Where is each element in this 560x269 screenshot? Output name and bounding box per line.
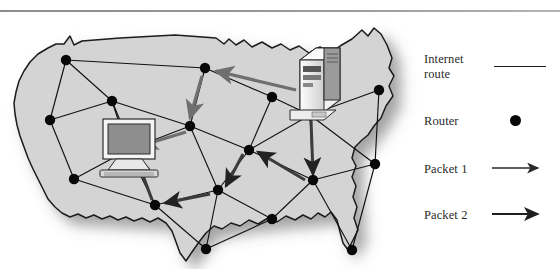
legend-item-packet1: Packet 1 [424, 158, 560, 180]
router-node[interactable] [45, 115, 55, 125]
legend-label-packet1: Packet 1 [424, 162, 486, 177]
legend-label-internet-route: Internet route [424, 52, 486, 82]
router-node[interactable] [347, 245, 357, 255]
legend: Internet route Router Packet 1 [424, 52, 560, 252]
router-dot-icon [488, 110, 556, 132]
router-node[interactable] [267, 214, 277, 224]
packet2-arrow-icon [488, 204, 556, 226]
packet1-arrow-icon [488, 158, 556, 180]
router-node[interactable] [267, 92, 277, 102]
router-node[interactable] [107, 96, 117, 106]
router-node[interactable] [150, 200, 160, 210]
router-node[interactable] [200, 63, 210, 73]
us-map-container [0, 14, 420, 269]
router-node[interactable] [244, 145, 254, 155]
routing-figure: Internet route Router Packet 1 [0, 0, 560, 269]
router-node[interactable] [201, 244, 211, 254]
router-node[interactable] [308, 175, 318, 185]
top-divider-rule [0, 10, 560, 12]
us-map-svg [0, 14, 420, 269]
router-node[interactable] [61, 55, 71, 65]
router-node[interactable] [185, 121, 195, 131]
router-node[interactable] [374, 85, 384, 95]
legend-item-router: Router [424, 110, 560, 132]
laptop-icon[interactable] [100, 119, 158, 177]
route-line-icon [488, 56, 556, 78]
legend-label-packet2: Packet 2 [424, 208, 486, 223]
legend-item-packet2: Packet 2 [424, 204, 560, 226]
legend-label-router: Router [424, 114, 486, 129]
router-node[interactable] [213, 185, 223, 195]
router-node[interactable] [69, 174, 79, 184]
router-node[interactable] [370, 159, 380, 169]
legend-item-internet-route: Internet route [424, 52, 560, 82]
